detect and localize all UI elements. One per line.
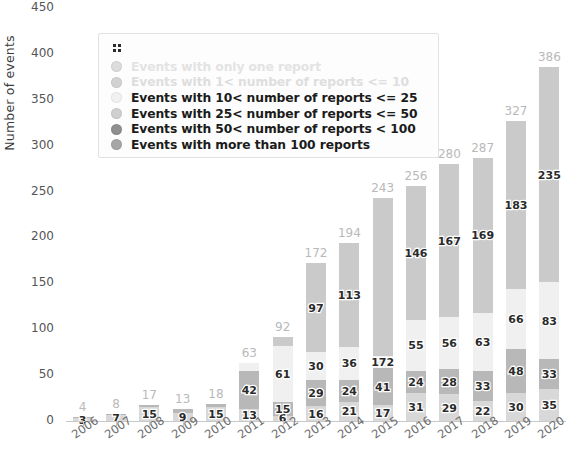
legend-item-label: Events with more than 100 reports <box>131 138 370 152</box>
legend-item[interactable]: Events with 25< number of reports <= 50 <box>111 106 430 122</box>
bar-segment[interactable] <box>373 198 393 356</box>
bar-total-label: 287 <box>471 141 494 155</box>
bar-total-label: 13 <box>175 392 190 406</box>
bar-segment[interactable] <box>506 289 526 350</box>
bar-total-label: 256 <box>405 169 428 183</box>
legend-swatch-icon <box>111 139 122 150</box>
bar-segment[interactable] <box>506 121 526 289</box>
bar-segment[interactable] <box>439 164 459 317</box>
bar-2017[interactable] <box>439 164 459 421</box>
bar-segment[interactable] <box>339 243 359 347</box>
y-axis-tick-label: 100 <box>20 321 54 335</box>
bar-segment[interactable] <box>539 282 559 358</box>
bar-segment[interactable] <box>539 67 559 283</box>
legend-item-label: Events with 50< number of reports < 100 <box>131 122 416 136</box>
bar-segment[interactable] <box>339 347 359 380</box>
stacked-bar-chart: Number of events 05010015020025030035040… <box>0 0 575 472</box>
bar-total-label: 280 <box>438 147 461 161</box>
bar-total-label: 386 <box>538 50 561 64</box>
bar-2015[interactable] <box>373 198 393 421</box>
y-axis-tick-label: 400 <box>20 46 54 60</box>
bar-total-label: 327 <box>505 104 528 118</box>
bar-2019[interactable] <box>506 121 526 421</box>
bar-2012[interactable] <box>273 337 293 421</box>
bar-segment[interactable] <box>239 363 259 370</box>
bar-total-label: 8 <box>112 397 120 411</box>
bar-segment[interactable] <box>406 186 426 320</box>
bar-segment[interactable] <box>439 369 459 395</box>
legend-item-label: Events with 1< number of reports <= 10 <box>131 75 409 89</box>
legend-swatch-icon <box>111 61 122 72</box>
bar-segment[interactable] <box>339 380 359 402</box>
drag-handle-icon[interactable] <box>113 44 122 53</box>
bar-2018[interactable] <box>473 158 493 421</box>
y-axis-tick-label: 300 <box>20 138 54 152</box>
legend-swatch-icon <box>111 108 122 119</box>
y-axis-tick-label: 450 <box>20 0 54 14</box>
bar-segment[interactable] <box>539 359 559 389</box>
legend-swatch-icon <box>111 92 122 103</box>
y-axis-tick-label: 0 <box>20 413 54 427</box>
chart-legend[interactable]: Events with only one reportEvents with 1… <box>98 33 439 158</box>
bar-total-label: 92 <box>275 320 290 334</box>
legend-item[interactable]: Events with 10< number of reports <= 25 <box>111 90 430 106</box>
bar-total-label: 172 <box>305 246 328 260</box>
bar-segment[interactable] <box>473 313 493 371</box>
legend-item[interactable]: Events with 50< number of reports < 100 <box>111 121 430 137</box>
y-axis-title: Number of events <box>2 18 17 168</box>
legend-swatch-icon <box>111 77 122 88</box>
bar-segment[interactable] <box>273 402 293 416</box>
bar-segment[interactable] <box>506 349 526 393</box>
bar-total-label: 17 <box>142 388 157 402</box>
bar-2013[interactable] <box>306 263 326 421</box>
legend-item-label: Events with 10< number of reports <= 25 <box>131 91 417 105</box>
bar-2020[interactable] <box>539 67 559 421</box>
y-axis-tick-label: 350 <box>20 92 54 106</box>
bar-segment[interactable] <box>373 368 393 406</box>
bar-segment[interactable] <box>306 352 326 380</box>
bar-2014[interactable] <box>339 243 359 421</box>
legend-item[interactable]: Events with only one report <box>111 59 430 75</box>
bar-total-label: 243 <box>371 181 394 195</box>
legend-item-label: Events with only one report <box>131 60 321 74</box>
bar-total-label: 18 <box>208 387 223 401</box>
bar-total-label: 194 <box>338 226 361 240</box>
bar-segment[interactable] <box>306 380 326 407</box>
legend-item[interactable]: Events with 1< number of reports <= 10 <box>111 75 430 91</box>
bar-segment[interactable] <box>373 356 393 368</box>
bar-segment[interactable] <box>473 158 493 313</box>
bar-2011[interactable] <box>239 363 259 421</box>
bar-total-label: 4 <box>79 400 87 414</box>
y-axis-tick-label: 150 <box>20 275 54 289</box>
y-axis-tick-label: 50 <box>20 367 54 381</box>
bar-segment[interactable] <box>406 371 426 393</box>
bar-segment[interactable] <box>406 320 426 370</box>
bar-total-label: 63 <box>242 346 257 360</box>
bar-segment[interactable] <box>273 337 293 346</box>
bar-segment[interactable] <box>439 317 459 368</box>
y-axis-tick-label: 200 <box>20 229 54 243</box>
y-axis-ticks: 050100150200250300350400450 <box>18 0 54 472</box>
legend-swatch-icon <box>111 124 122 135</box>
bar-segment[interactable] <box>306 263 326 352</box>
y-axis-tick-label: 250 <box>20 184 54 198</box>
bar-2016[interactable] <box>406 186 426 421</box>
bar-segment[interactable] <box>473 371 493 401</box>
legend-item[interactable]: Events with more than 100 reports <box>111 137 430 153</box>
legend-item-label: Events with 25< number of reports <= 50 <box>131 107 417 121</box>
bar-segment[interactable] <box>273 346 293 402</box>
bar-segment[interactable] <box>239 371 259 410</box>
